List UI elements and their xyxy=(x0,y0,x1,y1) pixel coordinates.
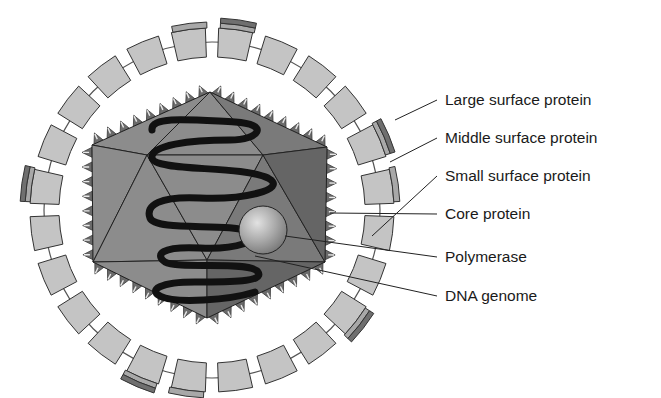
label-small-surface-protein: Small surface protein xyxy=(445,167,591,185)
label-middle-surface-protein: Middle surface protein xyxy=(445,129,598,147)
polymerase-sphere xyxy=(239,206,287,254)
hbv-diagram: Large surface protein Middle surface pro… xyxy=(0,0,661,398)
label-dna-genome: DNA genome xyxy=(445,287,537,305)
virus-illustration xyxy=(0,0,661,398)
label-polymerase: Polymerase xyxy=(445,248,527,266)
label-core-protein: Core protein xyxy=(445,205,530,223)
label-large-surface-protein: Large surface protein xyxy=(445,91,591,109)
